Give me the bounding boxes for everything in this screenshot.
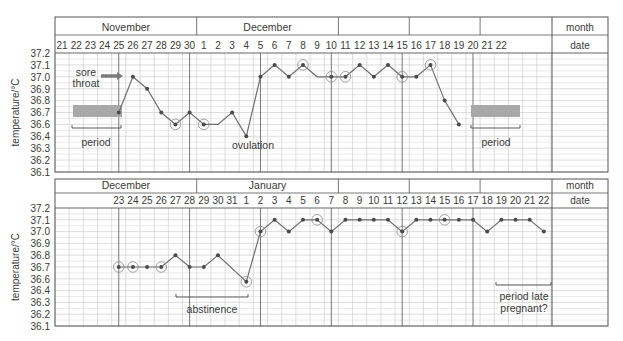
y-tick-label: 37.2 bbox=[31, 48, 51, 59]
date-label: 26 bbox=[156, 195, 168, 206]
data-point bbox=[528, 218, 532, 222]
data-point bbox=[273, 63, 277, 67]
data-point bbox=[542, 230, 546, 234]
data-point bbox=[287, 75, 291, 79]
y-tick-label: 37.2 bbox=[31, 203, 51, 214]
date-label: 15 bbox=[439, 195, 451, 206]
data-point bbox=[514, 218, 518, 222]
month-label: December bbox=[243, 21, 292, 33]
data-point bbox=[358, 63, 362, 67]
date-label: 17 bbox=[425, 40, 437, 51]
y-tick-label: 36.9 bbox=[31, 84, 51, 95]
date-label: 10 bbox=[326, 40, 338, 51]
date-label: 8 bbox=[343, 195, 349, 206]
date-label: 7 bbox=[286, 40, 292, 51]
month-label: December bbox=[102, 179, 151, 191]
y-tick-label: 37.1 bbox=[31, 215, 51, 226]
data-point bbox=[329, 75, 333, 79]
date-label: 7 bbox=[329, 195, 335, 206]
date-label: 28 bbox=[156, 40, 168, 51]
data-point bbox=[429, 218, 433, 222]
y-tick-label: 36.8 bbox=[31, 95, 51, 106]
date-labels: 2122232425262728293012345678910111213141… bbox=[57, 40, 508, 51]
date-label: 2 bbox=[215, 40, 221, 51]
month-header-label: month bbox=[566, 22, 594, 33]
data-point bbox=[173, 253, 177, 257]
data-point bbox=[188, 111, 192, 115]
bracket bbox=[471, 125, 520, 128]
date-label: 3 bbox=[229, 40, 235, 51]
data-point bbox=[131, 265, 135, 269]
date-label: 10 bbox=[368, 195, 380, 206]
data-point bbox=[358, 218, 362, 222]
data-point bbox=[202, 122, 206, 126]
date-label: 22 bbox=[496, 40, 508, 51]
data-point bbox=[287, 230, 291, 234]
data-point bbox=[457, 122, 461, 126]
bracket bbox=[176, 294, 248, 297]
data-point bbox=[301, 218, 305, 222]
date-label: 27 bbox=[142, 40, 154, 51]
month-label: November bbox=[102, 21, 151, 33]
y-axis: 37.237.137.036.936.836.736.636.436.336.2… bbox=[10, 203, 50, 332]
date-label: 20 bbox=[467, 40, 479, 51]
date-label: 27 bbox=[170, 195, 182, 206]
bracket bbox=[72, 125, 121, 128]
data-point bbox=[471, 218, 475, 222]
data-point bbox=[429, 63, 433, 67]
date-label: 19 bbox=[496, 195, 508, 206]
data-point bbox=[372, 75, 376, 79]
date-label: 1 bbox=[244, 195, 250, 206]
date-label: 13 bbox=[411, 195, 423, 206]
date-label: 28 bbox=[184, 195, 196, 206]
y-tick-label: 36.1 bbox=[31, 167, 51, 178]
date-label: 16 bbox=[411, 40, 423, 51]
annotation-label: pregnant? bbox=[500, 302, 547, 314]
date-label: 17 bbox=[467, 195, 479, 206]
y-tick-label: 36.9 bbox=[31, 238, 51, 249]
data-point bbox=[202, 265, 206, 269]
y-tick-label: 36.6 bbox=[31, 274, 51, 285]
date-label: 9 bbox=[314, 40, 320, 51]
data-point bbox=[159, 265, 163, 269]
date-label: 25 bbox=[113, 40, 125, 51]
y-tick-label: 37.0 bbox=[31, 226, 51, 237]
annotation-label: period late bbox=[499, 290, 548, 302]
data-point bbox=[145, 87, 149, 91]
chart-1: NovemberDecembermonthdate212223242526272… bbox=[10, 17, 608, 178]
y-tick-label: 36.7 bbox=[31, 262, 51, 273]
date-label: 12 bbox=[397, 195, 409, 206]
date-label: 8 bbox=[300, 40, 306, 51]
y-axis-title: temperature/°C bbox=[10, 79, 21, 147]
annotation-label: period bbox=[481, 136, 510, 148]
date-label: 4 bbox=[286, 195, 292, 206]
grid bbox=[55, 53, 608, 172]
data-point bbox=[159, 111, 163, 115]
annotation-label: ovulation bbox=[232, 139, 274, 151]
y-tick-label: 37.1 bbox=[31, 60, 51, 71]
date-label: 26 bbox=[127, 40, 139, 51]
data-point bbox=[301, 63, 305, 67]
period-bar bbox=[73, 105, 122, 117]
bracket bbox=[496, 282, 551, 285]
y-tick-label: 37.0 bbox=[31, 72, 51, 83]
date-label: 24 bbox=[127, 195, 139, 206]
y-tick-label: 36.8 bbox=[31, 250, 51, 261]
date-label: 6 bbox=[272, 40, 278, 51]
data-point bbox=[258, 75, 262, 79]
date-label: 16 bbox=[453, 195, 465, 206]
period-bar bbox=[471, 105, 520, 117]
date-label: 22 bbox=[71, 40, 83, 51]
date-label: 21 bbox=[57, 40, 69, 51]
date-label: 30 bbox=[184, 40, 196, 51]
data-point bbox=[443, 99, 447, 103]
date-label: 11 bbox=[340, 40, 351, 51]
data-point bbox=[372, 218, 376, 222]
date-label: 24 bbox=[99, 40, 111, 51]
y-tick-label: 36.4 bbox=[31, 131, 51, 142]
data-point bbox=[244, 280, 248, 284]
y-tick-label: 36.4 bbox=[31, 285, 51, 296]
y-tick-label: 36.7 bbox=[31, 107, 51, 118]
data-point bbox=[145, 265, 149, 269]
date-label: 4 bbox=[244, 40, 250, 51]
